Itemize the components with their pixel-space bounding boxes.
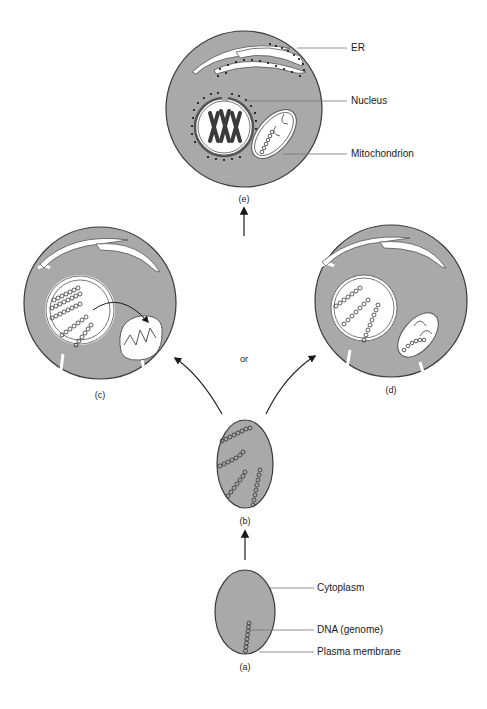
caption-d: (d) [386, 385, 397, 395]
caption-a: (a) [240, 662, 251, 672]
connector-or: or [240, 354, 248, 364]
panel-c-cell-genes-to-nucleus: (c) [24, 227, 176, 400]
arrow-b-to-c [175, 358, 222, 414]
cell-evolution-diagram: ER Nucleus Mitochondrion (e) [0, 0, 487, 709]
panel-a-prokaryotic-cell: Cytoplasm DNA (genome) Plasma membrane (… [215, 570, 401, 672]
label-cytoplasm: Cytoplasm [317, 582, 364, 593]
caption-e: (e) [239, 194, 250, 204]
panel-d-cell-genes-in-mitochondrion: (d) [315, 225, 467, 395]
arrow-b-to-d [266, 356, 315, 414]
label-er: ER [351, 42, 365, 53]
panel-e-eukaryotic-cell: ER Nucleus Mitochondrion (e) [166, 31, 414, 204]
caption-b: (b) [240, 516, 251, 526]
caption-c: (c) [95, 390, 106, 400]
label-nucleus: Nucleus [351, 95, 387, 106]
label-mitochondrion: Mitochondrion [351, 148, 414, 159]
label-dna-genome: DNA (genome) [317, 624, 383, 635]
label-plasma-membrane: Plasma membrane [317, 646, 401, 657]
panel-b-cell-multiple-genomes: (b) [217, 420, 273, 526]
